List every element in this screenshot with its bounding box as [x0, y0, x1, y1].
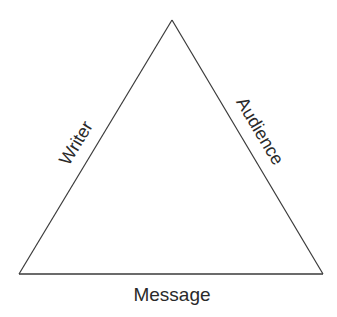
triangle-right-edge	[172, 20, 323, 274]
message-label: Message	[133, 285, 210, 304]
triangle-left-edge	[19, 20, 172, 274]
